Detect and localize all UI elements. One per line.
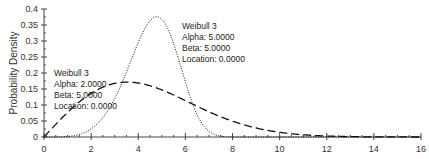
annotation-line: Alpha: 5.0000 [182, 32, 235, 42]
annotation-line: Location: 0.0000 [54, 101, 117, 111]
y-tick-label: 0 [33, 132, 38, 142]
x-tick-label: 12 [322, 144, 332, 154]
y-axis-label: Probability Density [8, 32, 19, 115]
y-tick-label: 0.35 [20, 20, 38, 30]
y-tick-label: 0.3 [25, 36, 38, 46]
annotation-line: Alpha: 2.0000 [54, 79, 107, 89]
weibull-density-chart: 024681012141600.050.10.150.20.250.30.350… [0, 0, 429, 159]
annotation-line: Location: 0.0000 [182, 54, 245, 64]
y-tick-label: 0.2 [25, 68, 38, 78]
annotation-line: Weibull 3 [54, 68, 89, 78]
x-tick-label: 6 [183, 144, 188, 154]
y-tick-label: 0.1 [25, 100, 38, 110]
x-tick-label: 2 [89, 144, 94, 154]
annotations: Weibull 3Alpha: 2.0000Beta: 5.0000Locati… [54, 21, 245, 111]
x-tick-label: 4 [136, 144, 141, 154]
annotation-line: Weibull 3 [182, 21, 217, 31]
y-tick-label: 0.15 [20, 84, 38, 94]
annotation-line: Beta: 5.0000 [54, 90, 102, 100]
y-tick-label: 0.25 [20, 52, 38, 62]
x-tick-label: 8 [230, 144, 235, 154]
x-tick-label: 14 [369, 144, 379, 154]
y-tick-label: 0.05 [20, 116, 38, 126]
y-tick-label: 0.4 [25, 4, 38, 14]
x-tick-label: 10 [275, 144, 285, 154]
x-tick-label: 0 [41, 144, 46, 154]
x-tick-label: 16 [416, 144, 426, 154]
annotation-line: Beta: 5.0000 [182, 43, 230, 53]
